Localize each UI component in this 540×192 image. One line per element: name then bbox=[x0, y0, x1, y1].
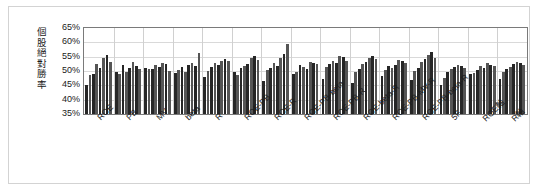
plot-area bbox=[83, 27, 528, 115]
bar-series-container bbox=[84, 28, 527, 114]
bar bbox=[276, 66, 279, 114]
bar bbox=[210, 67, 213, 114]
bar bbox=[138, 69, 141, 114]
bar bbox=[85, 85, 88, 114]
bar bbox=[207, 71, 210, 114]
bar bbox=[89, 75, 92, 114]
bar bbox=[295, 72, 298, 114]
bar bbox=[148, 69, 151, 114]
bar bbox=[168, 71, 171, 114]
bar bbox=[115, 72, 118, 114]
bar bbox=[184, 72, 187, 114]
bar bbox=[473, 73, 476, 114]
bar bbox=[214, 63, 217, 114]
bar bbox=[302, 67, 305, 114]
x-axis-tick-labels: ROEPBMVbetaRROE-PBROE-RROE-PB-betaROE-PB… bbox=[83, 115, 528, 165]
bar bbox=[269, 68, 272, 114]
bar bbox=[479, 66, 482, 114]
bar bbox=[154, 65, 157, 114]
bar bbox=[224, 59, 227, 114]
bar bbox=[165, 64, 168, 114]
bar bbox=[144, 68, 147, 114]
bar bbox=[522, 65, 525, 114]
bar bbox=[240, 68, 243, 114]
bar bbox=[509, 67, 512, 114]
y-tick-label: 35% bbox=[62, 108, 80, 118]
y-axis-tick-labels: 65%60%55%50%45%40%35% bbox=[47, 21, 80, 115]
bar bbox=[118, 74, 121, 114]
chart-figure: 個股絕對勝率 65%60%55%50%45%40%35% ROEPBMVbeta… bbox=[0, 0, 540, 192]
bar bbox=[365, 62, 368, 114]
bar bbox=[203, 77, 206, 114]
bar bbox=[220, 61, 223, 114]
chart-outer-frame: 個股絕對勝率 65%60%55%50%45%40%35% ROEPBMVbeta… bbox=[8, 6, 530, 184]
bar bbox=[273, 63, 276, 114]
y-tick-label: 45% bbox=[62, 79, 80, 89]
bar bbox=[227, 61, 230, 114]
bar bbox=[505, 69, 508, 114]
bar bbox=[181, 67, 184, 114]
bar bbox=[177, 70, 180, 114]
bar bbox=[125, 72, 128, 114]
bar bbox=[122, 65, 125, 114]
y-tick-label: 55% bbox=[62, 51, 80, 61]
bar bbox=[233, 72, 236, 114]
bar bbox=[217, 65, 220, 114]
bar bbox=[135, 66, 138, 114]
y-tick-label: 40% bbox=[62, 94, 80, 104]
bar bbox=[243, 66, 246, 114]
bar bbox=[469, 74, 472, 114]
bar bbox=[174, 73, 177, 114]
bar bbox=[476, 70, 479, 114]
bar bbox=[151, 69, 154, 114]
bar bbox=[92, 74, 95, 114]
y-tick-label: 60% bbox=[62, 36, 80, 46]
bar bbox=[95, 64, 98, 114]
bar bbox=[236, 75, 239, 114]
y-tick-label: 50% bbox=[62, 65, 80, 75]
bar bbox=[299, 65, 302, 114]
bar bbox=[306, 69, 309, 114]
y-tick-label: 65% bbox=[62, 22, 80, 32]
